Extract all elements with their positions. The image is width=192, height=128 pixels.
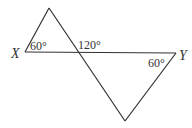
- transversal: [49, 8, 125, 121]
- angle-intersection-label: 120°: [78, 38, 101, 52]
- angle-y-label: 60°: [148, 56, 165, 70]
- angle-x-label: 60°: [30, 39, 47, 53]
- label-y: Y: [179, 48, 189, 63]
- segment-xy: [25, 52, 176, 53]
- geometry-diagram: X Y 60° 120° 60°: [0, 0, 192, 128]
- label-x: X: [10, 46, 20, 61]
